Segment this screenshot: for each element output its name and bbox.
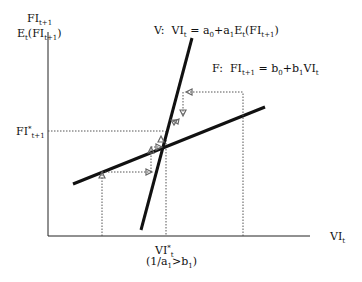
f-curve-equation: F: FIt+1 = b0+b1VIt xyxy=(212,63,319,79)
fi-equilibrium-label: FI*t+1 xyxy=(16,124,45,142)
x-axis-label: VIt xyxy=(330,231,345,247)
y-axis-label-expectation: Et(FIt+1) xyxy=(17,28,62,44)
arrow-up-icon xyxy=(158,136,164,142)
stability-condition: (1/a1>b1) xyxy=(146,256,197,272)
v-curve-equation: V: VIt = a0+a1Et(FIt+1) xyxy=(154,25,279,41)
